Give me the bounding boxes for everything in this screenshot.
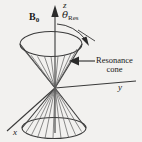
y-axis-label: y — [118, 83, 122, 92]
lower-cone-generator — [55, 88, 69, 137]
upper-cone-generator — [55, 53, 72, 89]
magnetic-field-symbol: B — [29, 11, 36, 22]
lower-cone-generator — [22, 88, 55, 128]
lower-cone-generator — [55, 88, 82, 132]
lower-cone-generator — [55, 88, 86, 128]
upper-cone-rim — [20, 32, 82, 57]
angle-arc-group — [57, 24, 95, 46]
magnetic-field-label: B0 — [29, 12, 39, 24]
resonance-cone-annotation: Resonance cone — [96, 56, 133, 74]
lower-cone — [22, 88, 86, 139]
theta-subscript: Res — [68, 14, 79, 22]
angle-arc-arrowhead — [82, 37, 90, 47]
y-axis-line — [55, 81, 136, 88]
z-axis-arrowhead — [51, 5, 58, 17]
x-axis-label: x — [13, 128, 17, 137]
magnetic-field-subscript: 0 — [36, 16, 40, 24]
resonance-angle-label: θRes — [62, 10, 79, 22]
resonance-cone-figure: z y x B0 θRes Resonance cone — [0, 0, 142, 142]
annotation-line-2: cone — [96, 65, 133, 74]
